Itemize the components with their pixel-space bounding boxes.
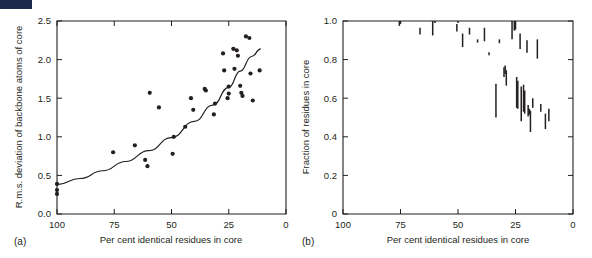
panel-a: 0.00.51.01.52.02.5 1007550250 Per cent i…	[0, 0, 296, 258]
panel-a-data-points	[55, 34, 262, 196]
panel-a-svg: 0.00.51.01.52.02.5 1007550250 Per cent i…	[0, 0, 296, 258]
panel-b-range-bars	[399, 21, 548, 132]
figure-container: 0.00.51.01.52.02.5 1007550250 Per cent i…	[0, 0, 592, 258]
panel-b-y-tick-label: 0.2	[324, 170, 337, 181]
panel-b-y-axis-title: Fraction of residues in core	[300, 60, 311, 175]
panel-a-y-tick-label: 2.0	[38, 54, 51, 65]
panel-b-y-tick-label: 1.0	[324, 15, 337, 26]
panel-a-data-point	[236, 54, 240, 58]
panel-a-data-point	[133, 143, 137, 147]
panel-a-x-tick-label: 25	[223, 219, 234, 230]
panel-b-plot-frame	[343, 21, 573, 214]
panel-a-x-tick-label: 75	[109, 219, 120, 230]
panel-a-data-point	[238, 84, 242, 88]
panel-a-data-point	[148, 91, 152, 95]
panel-b-x-tick-label: 0	[570, 219, 575, 230]
panel-a-data-point	[251, 98, 255, 102]
panel-a-data-point	[55, 188, 59, 192]
panel-a-ticks	[57, 21, 286, 214]
panel-a-label: (a)	[14, 236, 26, 247]
panel-b-x-tick-label: 50	[453, 219, 464, 230]
panel-a-data-point	[111, 150, 115, 154]
panel-a-data-point	[213, 102, 217, 106]
panel-a-axes	[57, 21, 286, 214]
panel-a-data-point	[189, 96, 193, 100]
panel-a-data-point	[55, 192, 59, 196]
panel-a-data-point	[235, 48, 239, 52]
panel-a-x-tick-labels: 1007550250	[49, 219, 289, 230]
panel-a-plot-frame	[57, 21, 286, 214]
panel-b-y-tick-labels: 00.20.40.60.81.0	[324, 15, 337, 219]
panel-a-y-tick-label: 1.0	[38, 131, 51, 142]
panel-a-data-point	[232, 67, 236, 71]
panel-b: 00.20.40.60.81.0 1007550250 Per cent ide…	[296, 0, 592, 258]
panel-a-data-point	[227, 85, 231, 89]
panel-a-x-tick-label: 50	[166, 219, 177, 230]
panel-a-data-point	[191, 108, 195, 112]
panel-b-x-axis-title: Per cent identical residues in core	[387, 234, 530, 245]
panel-a-y-tick-label: 1.5	[38, 93, 51, 104]
panel-b-svg: 00.20.40.60.81.0 1007550250 Per cent ide…	[296, 0, 592, 258]
panel-a-data-point	[157, 105, 161, 109]
panel-a-y-axis-title: R.m.s. deviation of backbone atoms of co…	[13, 26, 24, 209]
panel-b-y-tick-label: 0.6	[324, 93, 337, 104]
panel-a-curve-path	[57, 49, 261, 185]
panel-a-data-point	[212, 112, 216, 116]
panel-b-x-tick-label: 25	[510, 219, 521, 230]
panel-a-y-tick-label: 2.5	[38, 15, 51, 26]
panel-b-y-tick-label: 0.8	[324, 54, 337, 65]
panel-a-data-point	[248, 71, 252, 75]
panel-a-data-point	[222, 68, 226, 72]
panel-b-y-tick-label: 0	[332, 208, 337, 219]
panel-b-x-tick-label: 100	[335, 219, 351, 230]
panel-a-x-axis-title: Per cent identical residues in core	[100, 234, 243, 245]
panel-a-y-tick-labels: 0.00.51.01.52.02.5	[38, 15, 51, 219]
panel-a-x-tick-label: 100	[49, 219, 65, 230]
panel-b-ticks	[343, 21, 573, 214]
panel-a-y-tick-label: 0.0	[38, 208, 51, 219]
panel-a-data-point	[226, 96, 230, 100]
panel-a-data-point	[258, 68, 262, 72]
panel-a-data-point	[171, 152, 175, 156]
panel-b-label: (b)	[302, 236, 314, 247]
panel-a-data-point	[55, 182, 59, 186]
panel-a-trend-curve	[57, 49, 261, 185]
panel-a-data-point	[145, 164, 149, 168]
panel-a-data-point	[204, 88, 208, 92]
panel-b-y-tick-label: 0.4	[324, 131, 337, 142]
panel-a-data-point	[183, 125, 187, 129]
panel-a-data-point	[172, 135, 176, 139]
panel-a-data-point	[240, 94, 244, 98]
panel-a-data-point	[227, 91, 231, 95]
panel-a-y-tick-label: 0.5	[38, 170, 51, 181]
panel-a-data-point	[143, 158, 147, 162]
panel-a-data-point	[247, 36, 251, 40]
panel-b-x-tick-labels: 1007550250	[335, 219, 576, 230]
panel-b-axes	[343, 21, 573, 214]
panel-b-x-tick-label: 75	[395, 219, 406, 230]
panel-a-x-tick-label: 0	[283, 219, 288, 230]
panel-a-data-point	[221, 51, 225, 55]
